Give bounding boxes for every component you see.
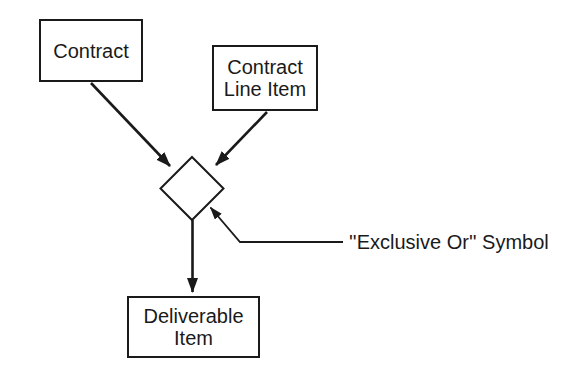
arrow-contract-to-xor bbox=[91, 83, 170, 166]
annotation-leader-arrow bbox=[211, 208, 344, 243]
entity-label-line: Line Item bbox=[224, 78, 306, 100]
entity-label-line: Contract bbox=[53, 40, 129, 62]
entity-label-line: Deliverable bbox=[143, 305, 243, 327]
arrow-contract-line-item-to-xor bbox=[216, 112, 267, 165]
entity-box-contract: Contract bbox=[39, 19, 143, 82]
diagram-canvas: Contract Contract Line Item Deliverable … bbox=[0, 0, 578, 377]
entity-box-deliverable-item: Deliverable Item bbox=[127, 296, 260, 358]
entity-label-line: Contract bbox=[227, 56, 303, 78]
entity-label-line: Item bbox=[174, 327, 213, 349]
exclusive-or-annotation-label: ''Exclusive Or'' Symbol bbox=[349, 231, 549, 253]
entity-box-contract-line-item: Contract Line Item bbox=[212, 45, 318, 111]
